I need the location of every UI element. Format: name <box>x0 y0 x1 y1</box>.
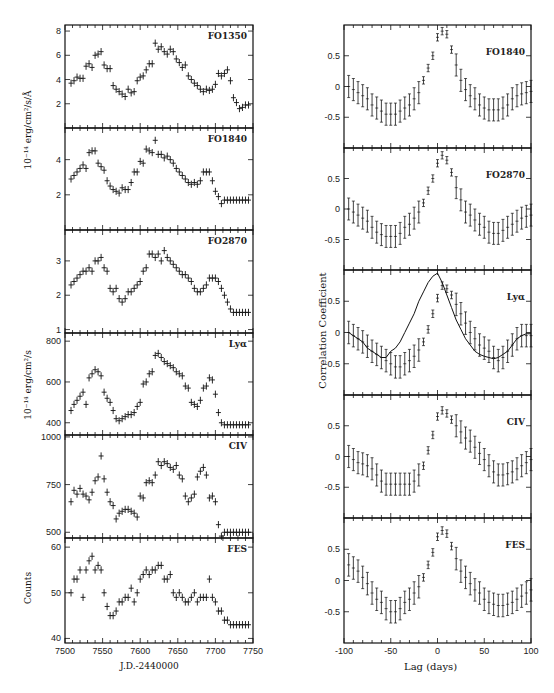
svg-text:-0.5: -0.5 <box>324 235 340 245</box>
svg-text:3: 3 <box>56 256 61 266</box>
svg-text:0: 0 <box>335 328 340 338</box>
svg-text:-0.5: -0.5 <box>324 482 340 492</box>
svg-text:0: 0 <box>335 576 340 586</box>
ccf-panel-lyα: -0.500.5Lyα <box>324 270 532 395</box>
svg-text:FES: FES <box>227 544 247 554</box>
light-curve-panel-fo1350: 2468FO1350 <box>56 25 253 128</box>
x-tick-label: -100 <box>335 646 353 656</box>
svg-text:FO2870: FO2870 <box>486 170 525 180</box>
svg-text:6: 6 <box>56 50 61 60</box>
svg-text:0: 0 <box>335 82 340 92</box>
ccf-panel-fo2870: -0.500.5FO2870 <box>324 148 532 270</box>
x-tick-label: -50 <box>384 646 397 656</box>
left-ylabel-bottom: Counts <box>23 571 33 605</box>
left-ylabel-top: 10⁻¹⁴ erg/cm²/s/Å <box>23 75 33 185</box>
svg-text:-0.5: -0.5 <box>324 112 340 122</box>
left-ylabel-mid: 10⁻¹⁴ erg/cm²/s <box>23 335 33 435</box>
svg-text:750: 750 <box>46 480 61 490</box>
svg-text:FO2870: FO2870 <box>208 236 247 246</box>
x-tick-label: 7700 <box>205 646 225 656</box>
svg-text:-0.5: -0.5 <box>324 607 340 617</box>
svg-text:0.5: 0.5 <box>327 296 340 306</box>
svg-text:600: 600 <box>46 377 61 387</box>
svg-text:2: 2 <box>56 99 61 109</box>
ccf-panel-fo1840: -0.500.5FO1840 <box>324 25 532 148</box>
x-tick-label: 100 <box>523 646 538 656</box>
svg-text:CIV: CIV <box>229 441 248 451</box>
left-xlabel: J.D.-2440000 <box>120 661 179 671</box>
ccf-panel-fes: -0.500.5FES <box>324 518 532 643</box>
svg-text:40: 40 <box>51 633 61 643</box>
svg-text:8: 8 <box>56 26 61 36</box>
light-curve-panel-fes: 405060FES <box>51 538 253 643</box>
svg-text:2: 2 <box>56 190 61 200</box>
x-tick-label: 50 <box>479 646 489 656</box>
x-tick-label: 7750 <box>243 646 263 656</box>
svg-text:1: 1 <box>56 325 61 335</box>
svg-text:0.5: 0.5 <box>327 544 340 554</box>
light-curve-panel-civ: 5007501000CIV <box>41 432 253 540</box>
svg-text:2: 2 <box>56 290 61 300</box>
svg-text:4: 4 <box>56 75 61 85</box>
right-xlabel: Lag (days) <box>404 661 457 672</box>
svg-text:0: 0 <box>335 452 340 462</box>
svg-text:Lyα: Lyα <box>507 292 525 302</box>
svg-text:0: 0 <box>335 204 340 214</box>
svg-text:FO1350: FO1350 <box>208 31 247 41</box>
svg-text:1000: 1000 <box>41 432 61 442</box>
svg-text:FO1840: FO1840 <box>486 47 525 57</box>
x-tick-label: 7500 <box>55 646 75 656</box>
svg-text:FES: FES <box>505 540 525 550</box>
svg-text:60: 60 <box>51 542 61 552</box>
x-tick-label: 7600 <box>130 646 150 656</box>
ccf-panel-civ: -0.500.5CIV <box>324 395 532 518</box>
light-curve-panel-fo1840: 24FO1840 <box>56 128 253 230</box>
x-tick-label: 0 <box>435 646 440 656</box>
svg-text:0.5: 0.5 <box>327 421 340 431</box>
svg-text:400: 400 <box>46 418 61 428</box>
light-curve-panel-fo2870: 123FO2870 <box>56 230 253 335</box>
svg-text:CIV: CIV <box>507 417 526 427</box>
svg-text:50: 50 <box>51 588 61 598</box>
svg-text:0.5: 0.5 <box>327 51 340 61</box>
svg-text:Lyα: Lyα <box>229 339 247 349</box>
x-tick-label: 7550 <box>93 646 113 656</box>
svg-text:0.5: 0.5 <box>327 174 340 184</box>
svg-text:FO1840: FO1840 <box>208 134 247 144</box>
figure: 2468FO135024FO1840123FO2870400600800Lyα5… <box>0 0 554 693</box>
light-curve-panel-lyα: 400600800Lyα <box>46 333 253 435</box>
x-tick-label: 7650 <box>168 646 188 656</box>
svg-text:800: 800 <box>46 336 61 346</box>
svg-text:4: 4 <box>56 155 61 165</box>
right-ylabel: Correlation Coefficient <box>317 266 328 396</box>
svg-text:500: 500 <box>46 527 61 537</box>
